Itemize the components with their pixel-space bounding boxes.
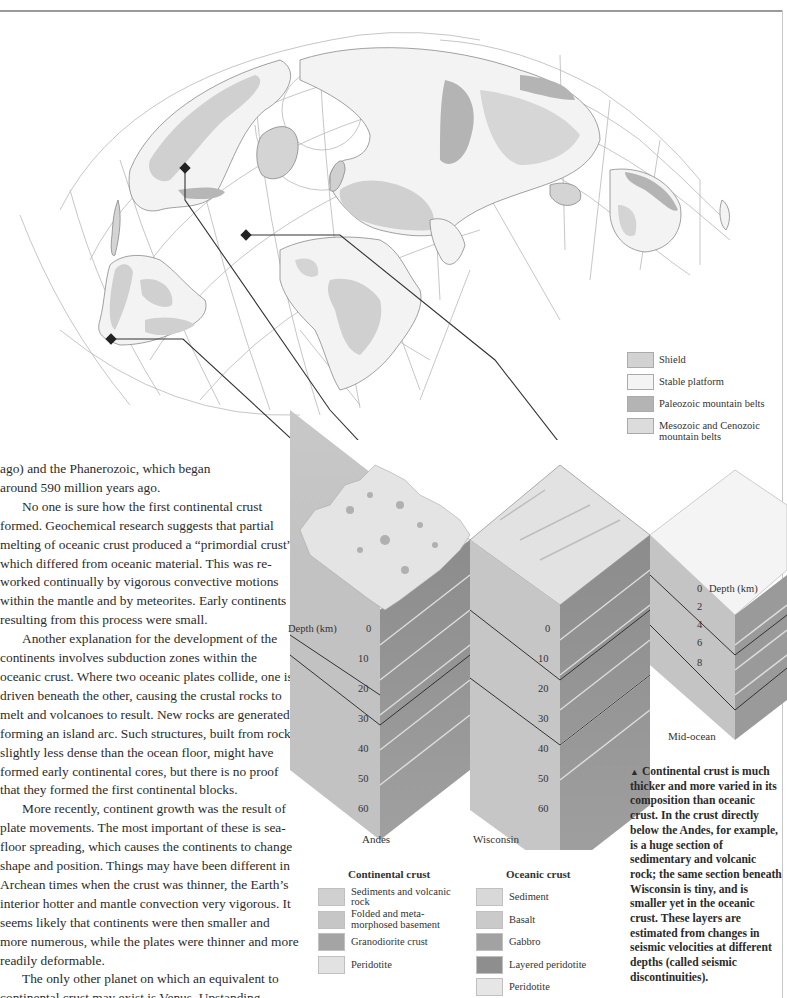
- legend-item: Gabbro: [476, 931, 626, 954]
- paragraph: No one is sure how the first continental…: [0, 498, 300, 630]
- legend-swatch: [627, 374, 654, 390]
- legend-item-shield: Shield: [627, 352, 787, 374]
- legend-item: Granodiorite crust: [318, 931, 468, 954]
- depth-tick: 0: [545, 623, 550, 634]
- legend-swatch: [318, 956, 345, 974]
- legend-label: Peridotite: [509, 982, 550, 993]
- oceanic-crust-legend: Oceanic crust Sediment Basalt Gabbro Lay…: [476, 868, 626, 998]
- depth-tick: 50: [538, 773, 549, 784]
- block-caption-wisconsin: Wisconsin: [473, 833, 519, 845]
- legend-swatch: [318, 888, 345, 906]
- continental-crust-legend: Continental crust Sediments and volcanic…: [318, 868, 468, 976]
- legend-swatch: [476, 933, 503, 951]
- landmasses: [99, 48, 730, 390]
- legend-label: Gabbro: [509, 937, 541, 948]
- legend-item: Basalt: [476, 909, 626, 932]
- legend-item: Layered peridotite: [476, 954, 626, 977]
- depth-tick: 10: [358, 653, 369, 664]
- depth-tick: 60: [538, 803, 549, 814]
- block-caption-andes: Andes: [362, 833, 390, 845]
- depth-tick: 2: [697, 601, 702, 612]
- legend-label: Granodiorite crust: [351, 937, 428, 948]
- legend-item: Sediments and volcanic rock: [318, 886, 468, 909]
- legend-item: Peridotite: [476, 976, 626, 998]
- depth-tick: 0: [697, 583, 702, 594]
- legend-item: Folded and meta-morphosed basement: [318, 909, 468, 932]
- legend-label: Stable platform: [659, 374, 724, 387]
- legend-title: Oceanic crust: [476, 868, 626, 880]
- triangle-marker-icon: ▲: [630, 767, 639, 777]
- depth-axis-label: Depth (km): [709, 583, 758, 594]
- figure-caption: ▲Continental crust is much thicker and m…: [630, 765, 782, 986]
- depth-tick: 20: [358, 683, 369, 694]
- depth-tick: 60: [358, 803, 369, 814]
- legend-swatch: [476, 978, 503, 996]
- paragraph: The only other planet on which an equiva…: [0, 970, 300, 998]
- legend-swatch: [318, 933, 345, 951]
- legend-swatch: [627, 352, 654, 368]
- block-caption-mid-ocean: Mid-ocean: [668, 730, 716, 742]
- legend-item: Sediment: [476, 886, 626, 909]
- wisconsin-block: [470, 465, 650, 850]
- depth-tick: 8: [697, 657, 702, 668]
- legend-label: Sediment: [509, 892, 549, 903]
- legend-label: Layered peridotite: [509, 960, 586, 971]
- paragraph: Another explanation for the development …: [0, 630, 300, 800]
- article-body: ago) and the Phanerozoic, which began ar…: [0, 460, 300, 998]
- paragraph: More recently, continent growth was the …: [0, 800, 300, 970]
- legend-item: Peridotite: [318, 954, 468, 977]
- legend-item-stable-platform: Stable platform: [627, 374, 787, 396]
- legend-label: Basalt: [509, 915, 535, 926]
- paragraph: ago) and the Phanerozoic, which began ar…: [0, 460, 240, 498]
- depth-tick: 0: [366, 623, 371, 634]
- legend-title: Continental crust: [318, 868, 468, 880]
- legend-label: Peridotite: [351, 960, 392, 971]
- depth-tick: 40: [538, 743, 549, 754]
- legend-label: Shield: [659, 352, 686, 365]
- legend-swatch: [476, 911, 503, 929]
- legend-swatch: [476, 888, 503, 906]
- marker-mid-ocean: [240, 229, 251, 240]
- legend-label: Folded and meta-morphosed basement: [351, 909, 468, 930]
- depth-tick: 30: [538, 713, 549, 724]
- depth-tick: 50: [358, 773, 369, 784]
- legend-swatch: [476, 956, 503, 974]
- depth-tick: 20: [538, 683, 549, 694]
- legend-swatch: [318, 911, 345, 929]
- depth-tick: 30: [358, 713, 369, 724]
- depth-tick: 40: [358, 743, 369, 754]
- caption-text: Continental crust is much thicker and mo…: [630, 765, 782, 984]
- legend-label: Paleozoic mountain belts: [659, 396, 765, 409]
- depth-tick: 10: [538, 653, 549, 664]
- depth-axis-label: Depth (km): [288, 623, 337, 634]
- mid-ocean-block: [650, 470, 787, 740]
- depth-tick: 6: [697, 637, 702, 648]
- depth-tick: 4: [697, 619, 702, 630]
- legend-label: Sediments and volcanic rock: [351, 887, 468, 908]
